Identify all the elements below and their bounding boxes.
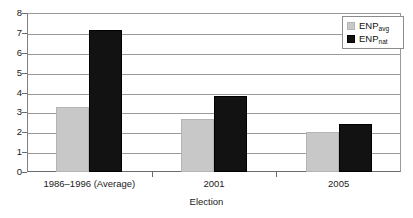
y-tick-mark <box>22 33 27 34</box>
y-tick-label: 7 <box>4 28 22 38</box>
x-axis-title: Election <box>0 196 413 207</box>
y-tick-label: 5 <box>4 68 22 78</box>
legend-item-enp-avg: ENPavg <box>347 20 399 32</box>
y-tick-label: 6 <box>4 48 22 58</box>
x-tick-label: 2005 <box>276 178 401 189</box>
x-tick-mark <box>152 172 153 177</box>
bar-ENPnat-0 <box>89 30 122 172</box>
y-tick-mark <box>22 53 27 54</box>
legend-label-enp-nat-sub: nat <box>379 38 388 45</box>
bar-ENPavg-2 <box>306 132 339 172</box>
y-tick-label: 0 <box>4 167 22 177</box>
y-tick-label: 3 <box>4 107 22 117</box>
y-tick-mark <box>22 73 27 74</box>
y-tick-mark <box>22 93 27 94</box>
bar-ENPavg-1 <box>181 119 214 172</box>
y-tick-label: 8 <box>4 8 22 18</box>
bar-ENPnat-2 <box>339 124 372 172</box>
bar-ENPavg-0 <box>56 107 89 172</box>
y-axis: 012345678 <box>0 0 22 218</box>
legend-swatch-enp-nat <box>347 35 355 43</box>
y-tick-label: 4 <box>4 88 22 98</box>
x-tick-label: 1986–1996 (Average) <box>27 178 152 189</box>
legend-label-enp-avg: ENPavg <box>359 21 389 31</box>
y-tick-mark <box>22 13 27 14</box>
legend-swatch-enp-avg <box>347 22 355 30</box>
legend-item-enp-nat: ENPnat <box>347 33 399 45</box>
legend: ENPavg ENPnat <box>342 16 404 49</box>
legend-label-enp-nat: ENPnat <box>359 34 388 44</box>
legend-label-enp-avg-sub: avg <box>379 25 389 32</box>
x-tick-mark <box>276 172 277 177</box>
y-tick-label: 1 <box>4 147 22 157</box>
bar-ENPnat-1 <box>214 96 247 172</box>
y-tick-mark <box>22 172 27 173</box>
legend-label-enp-avg-base: ENP <box>359 20 379 31</box>
y-tick-label: 2 <box>4 127 22 137</box>
bar-chart: 012345678 1986–1996 (Average)20012005 El… <box>0 0 413 218</box>
y-tick-mark <box>22 132 27 133</box>
y-tick-mark <box>22 152 27 153</box>
y-tick-mark <box>22 112 27 113</box>
legend-label-enp-nat-base: ENP <box>359 33 379 44</box>
x-tick-label: 2001 <box>152 178 277 189</box>
